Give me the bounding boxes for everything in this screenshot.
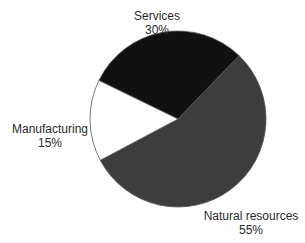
label-manufacturing-value: 15% [8,136,92,150]
label-natural-resources: Natural resources 55% [196,209,305,237]
label-services-name: Services [122,9,192,23]
label-services-value: 30% [122,23,192,37]
label-manufacturing: Manufacturing 15% [8,122,92,150]
label-natural-resources-value: 55% [196,223,305,237]
label-natural-resources-name: Natural resources [196,209,305,223]
label-services: Services 30% [122,9,192,37]
label-manufacturing-name: Manufacturing [8,122,92,136]
